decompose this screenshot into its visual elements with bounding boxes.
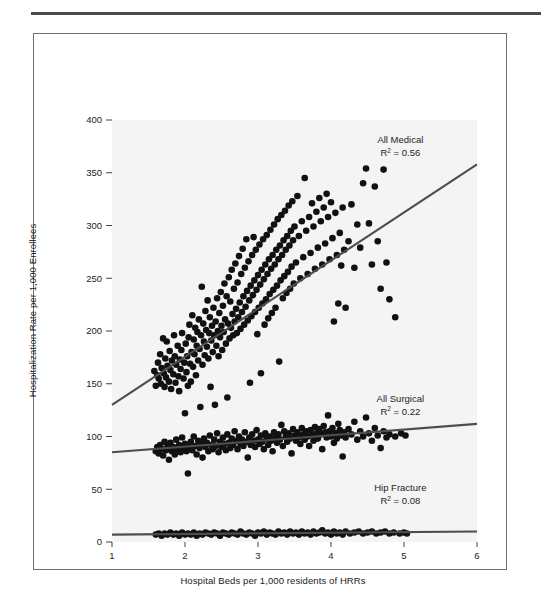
data-point — [374, 238, 381, 245]
data-point — [212, 318, 219, 325]
data-point — [296, 233, 303, 240]
data-point — [258, 370, 265, 377]
data-point — [339, 453, 346, 460]
data-point — [316, 195, 323, 202]
data-point — [181, 359, 188, 366]
data-point — [386, 296, 393, 303]
data-point — [288, 450, 295, 457]
data-point — [345, 238, 352, 245]
data-point — [317, 218, 324, 225]
data-point — [233, 306, 240, 313]
data-point — [320, 204, 327, 211]
data-point — [289, 198, 296, 205]
data-point — [369, 261, 376, 268]
y-tick-label: 400 — [86, 114, 102, 125]
data-point — [172, 379, 179, 386]
x-tick-label: 4 — [328, 550, 333, 561]
data-point — [380, 166, 387, 173]
data-point — [291, 223, 298, 230]
data-point — [360, 180, 367, 187]
y-tick-label: 150 — [86, 378, 102, 389]
data-point — [166, 378, 173, 385]
data-point — [244, 454, 251, 461]
data-point — [190, 364, 197, 371]
data-point — [309, 200, 316, 207]
data-point — [179, 330, 186, 337]
data-point — [372, 425, 379, 432]
data-point — [198, 332, 205, 339]
data-point — [168, 386, 175, 393]
y-tick-label: 350 — [86, 167, 102, 178]
data-point — [219, 347, 226, 354]
data-point — [301, 175, 308, 182]
data-point — [328, 199, 335, 206]
annotation-r-squared: R2 = 0.56 — [380, 147, 420, 159]
data-point — [332, 210, 339, 217]
annotation-series-label: All Medical — [377, 134, 423, 145]
data-point — [278, 422, 285, 429]
data-point — [186, 321, 193, 328]
data-point — [231, 428, 238, 435]
data-point — [320, 423, 327, 430]
data-point — [242, 429, 249, 436]
data-point — [335, 300, 342, 307]
data-point — [392, 314, 399, 321]
data-point — [180, 375, 187, 382]
data-point — [215, 353, 222, 360]
data-point — [254, 331, 261, 338]
data-point — [357, 244, 364, 251]
data-point — [360, 433, 367, 440]
data-point — [294, 193, 301, 200]
data-point — [331, 318, 338, 325]
data-point — [190, 336, 197, 343]
data-point — [236, 253, 243, 260]
data-point — [228, 267, 235, 274]
data-point — [261, 321, 268, 328]
data-point — [250, 234, 257, 241]
data-point — [392, 433, 399, 440]
scatter-plot-canvas: 050100150200250300350400123456 All Medic… — [0, 0, 546, 605]
data-point — [369, 437, 376, 444]
data-point — [329, 235, 336, 242]
data-point — [188, 378, 195, 385]
annotation-series-label: All Surgical — [377, 393, 425, 404]
data-point — [207, 314, 214, 321]
data-point — [163, 338, 170, 345]
data-point — [182, 340, 189, 347]
data-point — [200, 320, 207, 327]
data-point — [162, 355, 169, 362]
y-tick-label: 250 — [86, 273, 102, 284]
data-point — [339, 204, 346, 211]
data-point — [199, 454, 206, 461]
data-point — [182, 410, 189, 417]
y-axis-title: Hospitalization Rate per 1,000 Enrollees — [27, 221, 38, 401]
data-point — [213, 342, 220, 349]
data-point — [243, 236, 250, 243]
y-tick-label: 100 — [86, 431, 102, 442]
data-point — [245, 258, 252, 265]
data-point — [307, 250, 314, 257]
data-point — [197, 404, 204, 411]
data-point — [272, 304, 279, 311]
data-point — [315, 244, 322, 251]
data-point — [363, 165, 370, 172]
data-point — [214, 430, 221, 437]
data-point — [242, 303, 249, 310]
data-point — [383, 259, 390, 266]
data-point — [166, 456, 173, 463]
data-point — [290, 237, 297, 244]
data-point — [166, 348, 173, 355]
data-point — [242, 264, 249, 271]
data-point — [218, 322, 225, 329]
annotation-r-squared: R2 = 0.08 — [380, 495, 420, 507]
data-point — [377, 445, 384, 452]
data-point — [157, 351, 164, 358]
data-point — [214, 295, 221, 302]
data-point — [238, 271, 245, 278]
data-point — [342, 304, 349, 311]
data-point — [253, 427, 260, 434]
data-point — [185, 470, 192, 477]
data-point — [336, 230, 343, 237]
x-tick-label: 1 — [109, 550, 114, 561]
data-point — [348, 201, 355, 208]
